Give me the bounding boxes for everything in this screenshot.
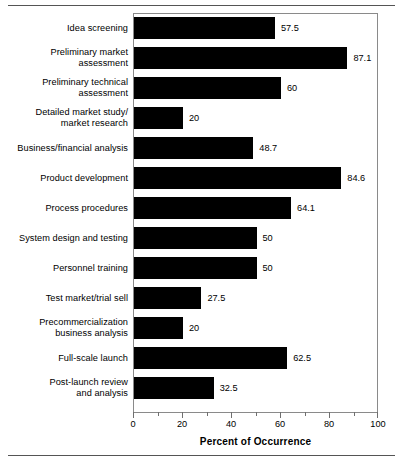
category-label-line: Personnel training [53, 263, 128, 274]
category-label-line: Post-launch review [49, 377, 128, 388]
category-label: System design and testing [0, 223, 128, 253]
category-label: Preliminary technicalassessment [0, 73, 128, 103]
bar-track: 62.5 [134, 343, 403, 373]
bar-value-label: 84.6 [347, 163, 365, 193]
x-axis-tick [280, 412, 281, 418]
category-label: Precommercializationbusiness analysis [0, 313, 128, 343]
category-label-line: Detailed market study/ [35, 107, 128, 118]
bar-row: Preliminary technicalassessment60 [0, 73, 403, 103]
bar-track: 48.7 [134, 133, 403, 163]
bar-value-label: 60 [287, 73, 297, 103]
bar-row: System design and testing50 [0, 223, 403, 253]
figure: Idea screening57.5Preliminary marketasse… [0, 0, 403, 465]
bar[interactable] [134, 17, 275, 39]
bar-row: Post-launch reviewand analysis32.5 [0, 373, 403, 403]
bar[interactable] [134, 107, 183, 129]
bar[interactable] [134, 167, 341, 189]
bar[interactable] [134, 257, 257, 279]
bar-track: 57.5 [134, 13, 403, 43]
category-label-line: assessment [78, 58, 128, 69]
bar-row: Detailed market study/market research20 [0, 103, 403, 133]
bar-row: Precommercializationbusiness analysis20 [0, 313, 403, 343]
bar-track: 50 [134, 223, 403, 253]
bar-track: 50 [134, 253, 403, 283]
bar-track: 32.5 [134, 373, 403, 403]
bar-value-label: 57.5 [281, 13, 299, 43]
x-axis-minor-tick [256, 412, 257, 416]
bar[interactable] [134, 287, 201, 309]
bar[interactable] [134, 347, 287, 369]
bar-value-label: 20 [189, 313, 199, 343]
category-label-line: market research [61, 118, 128, 129]
category-label-line: Preliminary market [51, 47, 128, 58]
bar[interactable] [134, 197, 291, 219]
category-label: Process procedures [0, 193, 128, 223]
bar-value-label: 50 [263, 223, 273, 253]
x-axis-tick [133, 412, 134, 418]
category-label: Personnel training [0, 253, 128, 283]
category-label: Post-launch reviewand analysis [0, 373, 128, 403]
category-label: Test market/trial sell [0, 283, 128, 313]
bar[interactable] [134, 137, 253, 159]
bar[interactable] [134, 317, 183, 339]
x-axis-title: Percent of Occurrence [133, 436, 378, 447]
category-label-line: Full-scale launch [58, 353, 128, 364]
category-label: Product development [0, 163, 128, 193]
bar-value-label: 64.1 [297, 193, 315, 223]
category-label-line: assessment [78, 88, 128, 99]
x-axis: 020406080100 [133, 412, 378, 456]
bar-track: 84.6 [134, 163, 403, 193]
x-axis-tick-label: 20 [177, 419, 187, 429]
x-axis-tick-label: 80 [324, 419, 334, 429]
bar-value-label: 32.5 [220, 373, 238, 403]
bar-track: 20 [134, 313, 403, 343]
x-axis-tick [329, 412, 330, 418]
category-label-line: Product development [40, 173, 128, 184]
category-label: Business/financial analysis [0, 133, 128, 163]
x-axis-tick [377, 412, 378, 418]
bar-row: Product development84.6 [0, 163, 403, 193]
x-axis-minor-tick [354, 412, 355, 416]
category-label-line: Precommercialization [39, 317, 128, 328]
x-axis-tick-label: 100 [370, 419, 385, 429]
category-label-line: Process procedures [45, 203, 128, 214]
bar[interactable] [134, 377, 214, 399]
x-axis-minor-tick [207, 412, 208, 416]
category-label-line: Business/financial analysis [17, 143, 128, 154]
category-label-line: and analysis [76, 388, 128, 399]
bar-track: 27.5 [134, 283, 403, 313]
category-label-line: Idea screening [67, 23, 128, 34]
category-label-line: Test market/trial sell [46, 293, 128, 304]
x-axis-tick [182, 412, 183, 418]
x-axis-tick-label: 60 [275, 419, 285, 429]
bar-value-label: 50 [263, 253, 273, 283]
category-label-line: business analysis [55, 328, 128, 339]
bar-value-label: 48.7 [259, 133, 277, 163]
category-label: Full-scale launch [0, 343, 128, 373]
category-label: Idea screening [0, 13, 128, 43]
bar-row: Test market/trial sell27.5 [0, 283, 403, 313]
x-axis-minor-tick [305, 412, 306, 416]
bar-track: 20 [134, 103, 403, 133]
category-label-line: System design and testing [19, 233, 128, 244]
category-label: Detailed market study/market research [0, 103, 128, 133]
bar-track: 87.1 [134, 43, 403, 73]
bar-row: Idea screening57.5 [0, 13, 403, 43]
bar[interactable] [134, 227, 257, 249]
bar-row: Business/financial analysis48.7 [0, 133, 403, 163]
category-label: Preliminary marketassessment [0, 43, 128, 73]
bar-row: Preliminary marketassessment87.1 [0, 43, 403, 73]
bottom-rule [8, 455, 395, 456]
category-label-line: Preliminary technical [42, 77, 128, 88]
bar-rows: Idea screening57.5Preliminary marketasse… [0, 13, 403, 413]
bar-row: Personnel training50 [0, 253, 403, 283]
bar-value-label: 62.5 [293, 343, 311, 373]
bar-track: 60 [134, 73, 403, 103]
x-axis-tick [231, 412, 232, 418]
bar[interactable] [134, 47, 347, 69]
bar-value-label: 20 [189, 103, 199, 133]
x-axis-tick-label: 40 [226, 419, 236, 429]
bar[interactable] [134, 77, 281, 99]
bar-track: 64.1 [134, 193, 403, 223]
x-axis-minor-tick [158, 412, 159, 416]
